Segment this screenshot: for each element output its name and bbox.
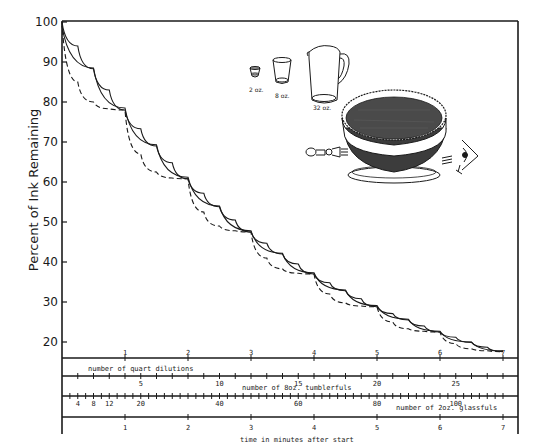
time-tick-label: 5 [375,424,379,432]
series-curve [62,22,503,352]
y-tick-label: 60 [43,175,58,189]
bowl-illustration [342,90,446,183]
glass-axis-title: number of 2oz. glassfuls [396,404,497,412]
axis-tick-label: 6 [438,349,442,357]
pitcher-32oz-icon [307,46,349,103]
time-tick-label: 4 [312,424,316,432]
y-tick-label: 70 [43,135,58,149]
axis-tick-label: 5 [139,380,143,388]
axis-tick-label: 12 [105,400,113,408]
y-axis-title: Percent of Ink Remaining [26,109,41,271]
tumbler-axis-title: number of 8oz. tumblerfuls [242,384,352,392]
time-tick-label: 3 [249,424,253,432]
series-curve [62,22,503,352]
axis-tick-label: 5 [375,349,379,357]
axis-tick-label: 2 [186,349,190,357]
y-tick-label: 20 [43,335,58,349]
time-tick-label: 6 [438,424,442,432]
ink-dilution-chart: 1009080706050403020 Percent of Ink Remai… [0,0,534,445]
tumbler-8oz-icon [273,58,291,84]
time-tick-label: 2 [186,424,190,432]
light-rays-icon [442,156,452,164]
y-tick-label: 80 [43,95,58,109]
axis-tick-label: 7 [501,349,505,357]
axis-tick-label: 20 [373,380,381,388]
axis-tick-label: 25 [452,380,460,388]
axis-tick-label: 40 [215,400,223,408]
glass-2oz-label: 2 oz. [249,86,264,93]
quart-axis-title: number of quart dilutions [88,365,193,373]
tumbler-8oz-label: 8 oz. [275,92,290,99]
data-curves [62,22,503,352]
axis-tick-label: 1 [123,349,127,357]
x-axis-title: time in minutes after start [240,436,354,444]
axis-tick-label: 10 [215,380,223,388]
light-bulb-icon [306,147,348,157]
time-tick-label: 7 [501,424,505,432]
axis-tick-label: 3 [249,349,253,357]
series-curve [62,26,503,351]
quart-dilutions-axis: 1234567 [123,349,505,361]
axis-tick-label: 80 [373,400,381,408]
time-axis: 1234567 [62,414,518,432]
y-tick-label: 100 [35,15,58,29]
y-tick-label: 90 [43,55,58,69]
y-tick-label: 50 [43,215,58,229]
y-tick-label: 40 [43,255,58,269]
container-illustrations: 2 oz. 8 oz. 32 oz. [249,46,349,111]
glass-2oz-icon [250,67,260,78]
axis-tick-label: 8 [91,400,95,408]
eye-icon [456,140,478,174]
axis-tick-label: 20 [137,400,145,408]
pitcher-32oz-label: 32 oz. [313,104,331,111]
axis-tick-label: 4 [76,400,80,408]
time-tick-label: 1 [123,424,127,432]
y-tick-label: 30 [43,295,58,309]
axis-tick-label: 60 [294,400,302,408]
axis-tick-label: 4 [312,349,316,357]
